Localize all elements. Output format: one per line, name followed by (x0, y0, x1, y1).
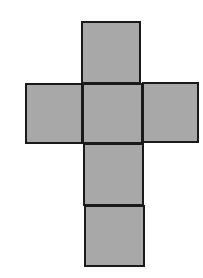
cube-face-lower (83, 143, 144, 206)
cube-face-top (81, 21, 141, 84)
cube-face-center (82, 83, 143, 144)
cube-face-bottom (84, 205, 145, 267)
cube-face-left (25, 83, 83, 144)
cube-face-right (142, 82, 199, 143)
